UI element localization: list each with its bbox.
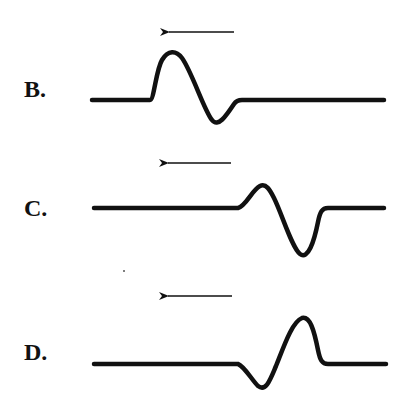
- panel-b: [92, 32, 384, 123]
- wave-pulse-b: [92, 52, 384, 122]
- option-label-d: D.: [24, 340, 47, 364]
- option-label-c: C.: [24, 196, 47, 220]
- option-label-b: B.: [24, 77, 46, 101]
- wave-pulse-figure: B. C. D.: [0, 0, 410, 411]
- scan-speck: [123, 270, 125, 272]
- waveform-canvas: [0, 0, 410, 411]
- wave-pulse-d: [94, 318, 386, 388]
- wave-pulse-c: [94, 185, 384, 255]
- panel-d: [94, 296, 386, 388]
- panel-c: [94, 163, 384, 255]
